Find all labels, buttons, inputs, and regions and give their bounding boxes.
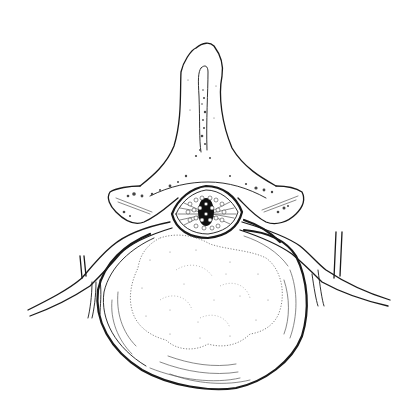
vertebra-illustration [0, 0, 418, 419]
spinous-process [140, 43, 276, 186]
spinal-canal [172, 186, 242, 238]
anatomical-figure: lumbar vertebra, axial (superior) view [0, 0, 418, 419]
intervertebral-disc [97, 230, 306, 389]
nerve-root-left [28, 222, 172, 318]
nucleus-pulposus [130, 235, 282, 349]
